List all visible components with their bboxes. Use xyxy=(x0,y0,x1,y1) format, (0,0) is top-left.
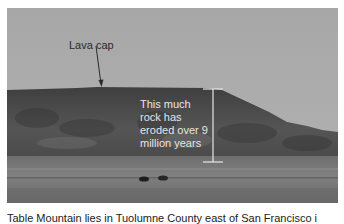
erosion-text-line: million years xyxy=(140,137,220,150)
cow-2 xyxy=(158,175,168,180)
lava-cap-label: Lava cap xyxy=(69,39,114,51)
erosion-text-line: This much xyxy=(140,98,220,111)
erosion-text-line: eroded over 9 xyxy=(140,124,220,137)
erosion-annotation: This much rock has eroded over 9 million… xyxy=(140,98,220,150)
landscape-photo: Lava cap This much rock has eroded over … xyxy=(7,8,338,203)
cow-1 xyxy=(139,176,149,181)
erosion-text-line: rock has xyxy=(140,111,220,124)
figure-caption: Table Mountain lies in Tuolumne County e… xyxy=(7,212,344,224)
